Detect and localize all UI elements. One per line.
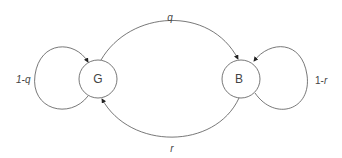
edge-b-to-g bbox=[102, 98, 239, 137]
edge-b-self-label: 1-r bbox=[315, 75, 328, 86]
markov-diagram: G B q r 1-q 1-r bbox=[0, 0, 342, 158]
edge-g-self-label: 1-q bbox=[16, 74, 31, 85]
edge-g-to-b-label: q bbox=[167, 12, 173, 23]
edge-g-to-b bbox=[101, 20, 238, 60]
edge-b-to-g-label: r bbox=[170, 143, 174, 154]
edge-g-self bbox=[35, 47, 88, 109]
node-b-label: B bbox=[235, 72, 243, 86]
node-b: B bbox=[222, 60, 260, 98]
node-g: G bbox=[79, 60, 117, 98]
node-g-label: G bbox=[93, 72, 102, 86]
edge-b-self bbox=[254, 47, 307, 110]
